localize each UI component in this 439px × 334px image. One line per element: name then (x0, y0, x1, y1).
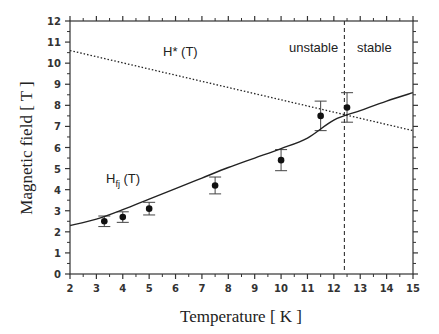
y-tick-label: 2 (54, 227, 61, 238)
x-tick-label: 3 (93, 283, 100, 294)
x-tick-label: 2 (67, 283, 74, 294)
y-tick-label: 11 (47, 37, 61, 48)
y-tick-label: 10 (47, 58, 61, 69)
x-tick-label: 7 (198, 283, 205, 294)
y-tick-label: 6 (54, 143, 61, 154)
data-point (275, 150, 287, 171)
y-tick-label: 1 (54, 248, 61, 259)
y-tick-label: 9 (54, 79, 61, 90)
data-point (143, 202, 155, 215)
x-tick-label: 4 (119, 283, 126, 294)
chart: 234567891011121314150123456789101112 H* … (0, 0, 439, 334)
x-tick-label: 14 (380, 283, 394, 294)
y-tick-label: 0 (54, 269, 61, 280)
x-tick-label: 12 (327, 283, 341, 294)
plot-series (70, 21, 413, 270)
data-point (209, 177, 221, 194)
x-tick-label: 10 (274, 283, 288, 294)
axis-ticks: 234567891011121314150123456789101112 (47, 16, 420, 294)
x-tick-label: 11 (301, 283, 315, 294)
x-tick-label: 15 (406, 283, 420, 294)
hfj-curve (70, 93, 413, 226)
x-tick-label: 6 (172, 283, 179, 294)
x-tick-label: 9 (251, 283, 258, 294)
data-point (117, 212, 129, 223)
y-tick-label: 7 (54, 121, 61, 132)
x-tick-label: 8 (225, 283, 232, 294)
y-tick-label: 4 (54, 185, 61, 196)
x-tick-label: 13 (353, 283, 367, 294)
hstar-curve (70, 51, 413, 131)
y-axis-title: Magnetic field [ T ] (17, 81, 36, 214)
y-tick-label: 8 (54, 100, 61, 111)
data-point (341, 93, 353, 123)
y-tick-label: 5 (54, 164, 61, 175)
hfj-label: Hfj (T) (106, 171, 140, 189)
unstable-label: unstable (289, 40, 338, 55)
x-axis-title: Temperature [ K ] (180, 307, 302, 326)
y-tick-label: 3 (54, 206, 61, 217)
hstar-label: H* (T) (163, 44, 198, 59)
stable-label: stable (357, 40, 392, 55)
x-tick-label: 5 (146, 283, 153, 294)
y-tick-label: 12 (47, 16, 61, 27)
plot-frame (70, 21, 413, 274)
